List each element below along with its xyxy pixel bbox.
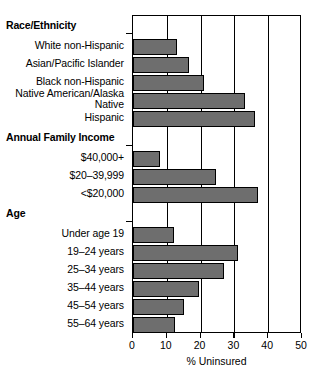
category-label: 25–34 years (67, 264, 124, 275)
x-tick-label: 50 (286, 339, 316, 351)
category-label: 45–54 years (67, 300, 124, 311)
x-axis-title: % Uninsured (132, 355, 301, 367)
category-label: 55–64 years (67, 318, 124, 329)
category-label: Asian/Pacific Islander (26, 58, 124, 69)
bar (133, 227, 174, 243)
x-tick (233, 333, 234, 338)
bar (133, 75, 204, 91)
bar (133, 169, 216, 185)
gridline (268, 16, 269, 332)
x-tick (267, 333, 268, 338)
bar (133, 57, 189, 73)
category-label: Hispanic (85, 112, 124, 123)
category-label: Black non-Hispanic (36, 76, 124, 87)
bar (133, 263, 224, 279)
gridline (234, 16, 235, 332)
bar (133, 281, 199, 297)
x-tick-label: 40 (252, 339, 282, 351)
group-tick (126, 145, 133, 146)
category-label: 19–24 years (67, 246, 124, 257)
category-label: Under age 19 (62, 228, 124, 239)
x-tick-label: 20 (185, 339, 215, 351)
bar (133, 187, 258, 203)
bar (133, 245, 238, 261)
x-tick-label: 10 (151, 339, 181, 351)
bar (133, 151, 160, 167)
x-tick (132, 333, 133, 338)
group-heading: Age (6, 207, 25, 219)
group-tick (126, 221, 133, 222)
group-heading: Annual Family Income (6, 131, 114, 143)
category-label: Native American/Alaska Native (2, 88, 124, 110)
bar (133, 111, 255, 127)
x-tick-label: 30 (218, 339, 248, 351)
x-tick (166, 333, 167, 338)
x-tick-label: 0 (117, 339, 147, 351)
plot-area (132, 15, 301, 333)
bar (133, 317, 175, 333)
category-label: White non-Hispanic (35, 40, 124, 51)
bar (133, 93, 245, 109)
category-label: 35–44 years (67, 282, 124, 293)
x-tick (200, 333, 201, 338)
x-tick (301, 333, 302, 338)
category-label: $40,000+ (81, 152, 124, 163)
group-heading: Race/Ethnicity (6, 19, 76, 31)
category-label: $20–39,999 (70, 170, 124, 181)
bar (133, 299, 184, 315)
uninsured-bar-chart: Race/EthnicityWhite non-HispanicAsian/Pa… (0, 0, 319, 373)
category-label: <$20,000 (81, 188, 124, 199)
category-label-column: Race/EthnicityWhite non-HispanicAsian/Pa… (0, 0, 128, 373)
bar (133, 39, 177, 55)
group-tick (126, 33, 133, 34)
